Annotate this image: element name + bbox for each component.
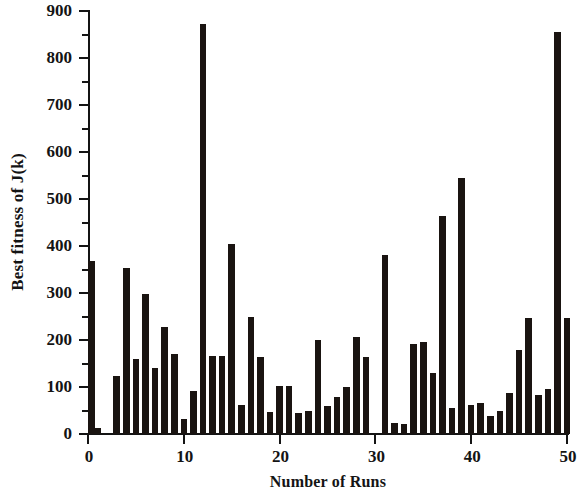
bar xyxy=(564,318,571,434)
y-tick-label-300: 300 xyxy=(8,284,72,301)
bar xyxy=(200,24,207,434)
bar xyxy=(343,387,350,434)
y-tick-800 xyxy=(79,57,88,59)
bar xyxy=(382,255,389,434)
bar-series xyxy=(88,11,569,434)
bar xyxy=(142,294,149,434)
bar xyxy=(487,416,494,434)
bar xyxy=(315,340,322,434)
x-tick-label-10: 10 xyxy=(160,448,210,465)
x-tick-40 xyxy=(470,435,472,444)
bar xyxy=(88,261,95,434)
bar xyxy=(152,368,159,434)
bar xyxy=(468,405,475,434)
bar xyxy=(286,386,293,434)
bar xyxy=(535,395,542,434)
bar xyxy=(449,408,456,434)
y-tick-label-800: 800 xyxy=(8,49,72,66)
bar xyxy=(219,356,226,434)
bar xyxy=(516,350,523,434)
bar xyxy=(334,397,341,434)
bar xyxy=(248,317,255,435)
x-tick-label-50: 50 xyxy=(543,448,581,465)
x-tick-label-20: 20 xyxy=(256,448,306,465)
x-tick-label-0: 0 xyxy=(64,448,114,465)
y-tick-100 xyxy=(79,386,88,388)
y-tick-label-0: 0 xyxy=(8,425,72,442)
y-tick-400 xyxy=(79,245,88,247)
bar xyxy=(497,411,504,435)
bar xyxy=(420,342,427,434)
bar xyxy=(525,318,532,434)
bar xyxy=(171,354,178,434)
y-tick-label-200: 200 xyxy=(8,331,72,348)
bar xyxy=(295,413,302,434)
bar xyxy=(181,419,188,435)
bar xyxy=(439,216,446,434)
x-axis-title: Number of Runs xyxy=(88,473,568,491)
y-tick-900 xyxy=(79,10,88,12)
x-tick-30 xyxy=(374,435,376,444)
y-tick-label-400: 400 xyxy=(8,237,72,254)
y-tick-700 xyxy=(79,104,88,106)
bar xyxy=(190,391,197,434)
bar xyxy=(238,405,245,434)
bar xyxy=(228,244,235,434)
bar xyxy=(94,428,101,434)
bar xyxy=(477,403,484,434)
bar xyxy=(161,327,168,434)
bar xyxy=(113,376,120,434)
bar xyxy=(257,357,264,434)
bar xyxy=(267,412,274,434)
y-tick-label-100: 100 xyxy=(8,378,72,395)
bar xyxy=(401,424,408,434)
y-tick-label-900: 900 xyxy=(8,2,72,19)
bar xyxy=(209,356,216,434)
x-tick-50 xyxy=(566,435,568,444)
bar xyxy=(458,178,465,434)
bar xyxy=(410,344,417,434)
bar xyxy=(353,337,360,434)
x-tick-10 xyxy=(183,435,185,444)
bar xyxy=(276,386,283,434)
bar xyxy=(545,389,552,434)
bar xyxy=(363,357,370,434)
x-tick-label-40: 40 xyxy=(447,448,497,465)
x-tick-20 xyxy=(279,435,281,444)
y-tick-200 xyxy=(79,339,88,341)
bar xyxy=(554,32,561,434)
bar xyxy=(430,373,437,434)
y-tick-label-700: 700 xyxy=(8,96,72,113)
y-tick-300 xyxy=(79,292,88,294)
x-tick-0 xyxy=(87,435,89,444)
bar xyxy=(305,411,312,434)
bar xyxy=(123,268,130,434)
y-tick-label-500: 500 xyxy=(8,190,72,207)
bar xyxy=(133,359,140,434)
bar xyxy=(506,393,513,434)
y-tick-600 xyxy=(79,151,88,153)
y-tick-label-600: 600 xyxy=(8,143,72,160)
y-tick-500 xyxy=(79,198,88,200)
bar xyxy=(391,423,398,434)
bar xyxy=(324,406,331,434)
x-tick-label-30: 30 xyxy=(351,448,401,465)
